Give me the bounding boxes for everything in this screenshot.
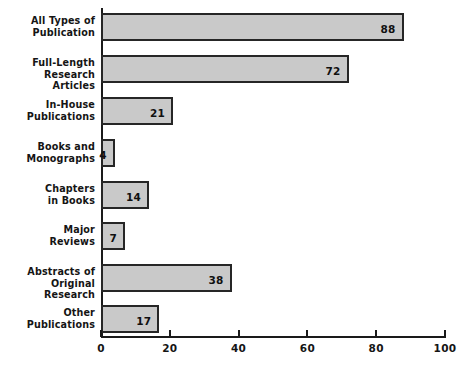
category-label-line: Research Articles (3, 69, 95, 92)
bar: 88 (101, 13, 404, 41)
bar-value-label: 17 (136, 307, 151, 335)
category-label: Books and Monographs (3, 141, 95, 164)
category-label-line: Major (3, 224, 95, 236)
category-label-line: in Books (3, 195, 95, 207)
bar: 38 (101, 264, 232, 292)
bar-value-label: 72 (325, 57, 340, 85)
bar-value-label: 14 (126, 183, 141, 211)
category-label: In-House Publications (3, 99, 95, 122)
category-label: Chapters in Books (3, 183, 95, 206)
category-label-line: Publications (3, 111, 95, 123)
category-label-line: Reviews (3, 236, 95, 248)
x-axis-tick-label: 0 (97, 342, 105, 354)
category-label: Abstracts of Original Research (3, 266, 95, 301)
bar-value-label: 7 (109, 224, 117, 252)
x-axis-tick-label: 20 (162, 342, 177, 354)
x-axis-tick-label: 80 (369, 342, 384, 354)
category-label-line: In-House (3, 99, 95, 111)
category-label: Full-Length Research Articles (3, 57, 95, 92)
x-axis-tick (444, 330, 446, 337)
bar-chart: All Types of Publication Full-Length Res… (0, 0, 464, 365)
bar: 21 (101, 97, 173, 125)
x-axis-tick (306, 330, 308, 337)
bar: 14 (101, 181, 149, 209)
category-label-line: All Types of (3, 15, 95, 27)
bar: 72 (101, 55, 349, 83)
category-label: Major Reviews (3, 224, 95, 247)
x-axis-tick (100, 330, 102, 337)
category-axis-labels: All Types of Publication Full-Length Res… (0, 0, 95, 365)
x-axis-tick-label: 60 (300, 342, 315, 354)
bar-value-label: 88 (381, 15, 396, 43)
category-label: Other Publications (3, 307, 95, 330)
x-axis-tick (238, 330, 240, 337)
x-axis-tick (375, 330, 377, 337)
bar-value-label: 21 (150, 99, 165, 127)
category-label-line: Publications (3, 319, 95, 331)
bar: 4 (101, 139, 115, 167)
category-label-line: Abstracts of (3, 266, 95, 278)
bar: 7 (101, 222, 125, 250)
category-label-line: Publication (3, 27, 95, 39)
category-label-line: Chapters (3, 183, 95, 195)
category-label-line: Books and (3, 141, 95, 153)
category-label-line: Monographs (3, 153, 95, 165)
x-axis-tick (169, 330, 171, 337)
x-axis-tick-label: 100 (434, 342, 457, 354)
category-label: All Types of Publication (3, 15, 95, 38)
x-axis-tick-label: 40 (231, 342, 246, 354)
category-label-line: Other (3, 307, 95, 319)
category-label-line: Full-Length (3, 57, 95, 69)
bar-value-label: 4 (99, 141, 107, 169)
bar-value-label: 38 (209, 266, 224, 294)
category-label-line: Original Research (3, 278, 95, 301)
plot-area: 88 72 21 4 14 7 (101, 8, 445, 337)
bar: 17 (101, 305, 159, 333)
